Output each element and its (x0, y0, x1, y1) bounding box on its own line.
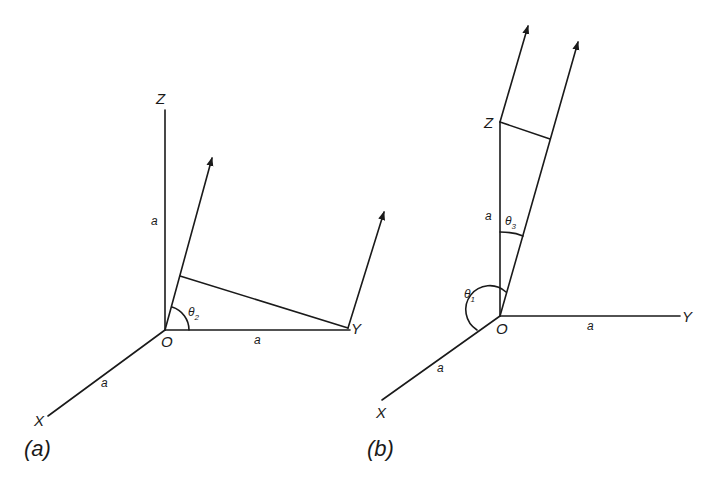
label-origin: O (496, 320, 508, 337)
label-a-ox: a (101, 376, 108, 390)
label-y: Y (351, 320, 362, 337)
vector-from-y-arrow (348, 212, 384, 328)
perpendicular-line (180, 276, 348, 328)
caption-b: (b) (367, 436, 394, 461)
label-a-oy: a (587, 319, 594, 333)
panel-a: Z Y X O a a a θ2 (a) (24, 90, 384, 461)
label-y: Y (682, 308, 693, 325)
label-x: X (375, 404, 387, 421)
label-a-oz: a (151, 214, 158, 228)
label-x: X (33, 412, 45, 429)
label-theta3: θ3 (505, 214, 517, 231)
x-axis-line (382, 316, 500, 400)
theta2-arc (172, 307, 189, 330)
label-a-ox: a (437, 361, 444, 375)
caption-a: (a) (24, 436, 51, 461)
label-theta2: θ2 (188, 305, 200, 322)
perpendicular-line (500, 122, 550, 139)
panel-b: Z Y X O a a a θ3 θ1 (b) (367, 26, 693, 461)
vector-from-z-arrow (500, 26, 528, 122)
label-theta1: θ1 (464, 287, 475, 304)
label-origin: O (161, 333, 173, 350)
label-z: Z (483, 114, 494, 131)
figure-canvas: Z Y X O a a a θ2 (a) Z Y X O a a a θ3 θ1… (0, 0, 711, 482)
x-axis-line (48, 330, 165, 416)
label-a-oz: a (485, 209, 492, 223)
label-a-oy: a (254, 333, 261, 347)
theta3-arc (500, 232, 523, 236)
label-z: Z (155, 90, 166, 107)
